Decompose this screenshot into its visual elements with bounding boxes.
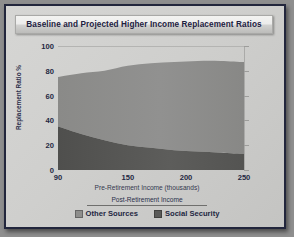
right-tick-100: [244, 46, 249, 47]
x-tick-150: 150: [121, 173, 134, 182]
legend-label-social-security: Social Security: [165, 209, 219, 218]
y-tick-100: 100: [28, 42, 54, 51]
x-tick-200: 200: [180, 173, 193, 182]
right-tick-0: [244, 170, 249, 171]
chart-legend: Post-Retirement Income Other Sources Soc…: [6, 196, 288, 218]
legend-swatch-icon: [154, 210, 162, 218]
plot-area: [58, 46, 244, 170]
y-tick-20: 20: [28, 141, 54, 150]
legend-item-other-sources[interactable]: Other Sources: [75, 209, 138, 218]
area-chart-svg: [58, 46, 244, 170]
y-tick-0: 0: [28, 166, 54, 175]
y-tick-40: 40: [28, 116, 54, 125]
right-tick-80: [244, 71, 249, 72]
x-axis-title: Pre-Retirement Income (thousands): [6, 184, 288, 191]
plot-wrapper: 100 80 60 40 20 0 Replacement Ratio %: [6, 36, 288, 186]
legend-divider: [87, 205, 207, 206]
y-tick-80: 80: [28, 67, 54, 76]
legend-item-social-security[interactable]: Social Security: [154, 209, 219, 218]
right-tick-60: [244, 96, 249, 97]
x-tick-90: 90: [54, 173, 62, 182]
right-tick-20: [244, 145, 249, 146]
legend-swatch-icon: [75, 210, 83, 218]
right-axis-line: [244, 46, 245, 171]
legend-header: Post-Retirement Income: [6, 196, 288, 205]
x-tick-250: 250: [238, 173, 251, 182]
y-axis-labels: 100 80 60 40 20 0: [20, 46, 54, 170]
legend-items: Other Sources Social Security: [6, 209, 288, 218]
right-tick-40: [244, 120, 249, 121]
chart-card: Baseline and Projected Higher Income Rep…: [4, 4, 286, 229]
legend-label-other-sources: Other Sources: [86, 209, 138, 218]
y-axis-title: Replacement Ratio %: [15, 50, 22, 146]
y-tick-60: 60: [28, 92, 54, 101]
chart-title-bar: Baseline and Projected Higher Income Rep…: [15, 15, 273, 34]
page-title: Baseline and Projected Higher Income Rep…: [26, 20, 261, 29]
